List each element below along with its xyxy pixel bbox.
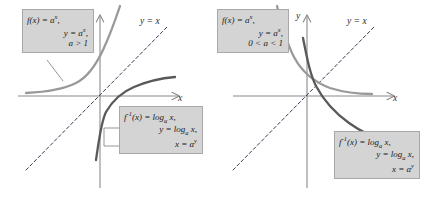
callout-line-xay: x = ay (124, 137, 197, 150)
callout-inverse-left: f-1(x) = loga x, y = loga x, x = ay (119, 106, 203, 154)
x-axis-label: x (393, 93, 397, 103)
callout-line-y: y = ax, (222, 26, 283, 39)
callout-line-fx: f(x) = ax, (222, 13, 283, 26)
callout-exponential-right: f(x) = ax, y = ax, 0 < a < 1 (217, 9, 289, 53)
callout-line-finv: f-1(x) = loga x, (339, 135, 414, 149)
callout-line-ylog: y = loga x, (124, 124, 197, 136)
x-axis (18, 92, 180, 100)
y-axis (96, 15, 103, 188)
logarithmic-curve (303, 38, 388, 142)
leader-line-exponential (47, 60, 63, 81)
callout-line-condition: a > 1 (27, 38, 88, 49)
identity-line-label: y = x (140, 16, 160, 26)
y-axis-label: y (296, 11, 300, 21)
callout-line-fx: f(x) = ax, (27, 13, 88, 26)
callout-line-finv: f-1(x) = loga x, (124, 110, 197, 124)
exponential-log-inverse-figure: y x y = x f(x) = ax, y = ax, a > 1 f-1(x… (0, 0, 430, 206)
x-axis-label: x (178, 93, 182, 103)
callout-line-y: y = ax, (27, 26, 88, 39)
callout-exponential-left: f(x) = ax, y = ax, a > 1 (22, 9, 94, 53)
callout-line-ylog: y = loga x, (339, 149, 414, 161)
callout-line-condition: 0 < a < 1 (222, 38, 283, 49)
identity-line-label: y = x (347, 16, 367, 26)
callout-line-xay: x = ay (339, 162, 414, 175)
callout-inverse-right: f-1(x) = loga x, y = loga x, x = ay (334, 131, 420, 179)
leader-line-inverse-2 (104, 128, 119, 146)
